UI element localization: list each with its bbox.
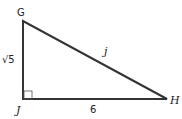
side-label-gh: j	[101, 45, 108, 58]
side-label-gj: √5	[2, 54, 15, 65]
vertex-label-h: H	[169, 94, 180, 107]
vertex-label-g: G	[17, 7, 25, 18]
triangle-gjh	[23, 21, 167, 99]
triangle-diagram: G J H √5 6 j	[0, 0, 182, 119]
right-angle-marker	[24, 91, 32, 99]
vertex-label-j: J	[14, 104, 21, 117]
side-label-jh: 6	[90, 104, 96, 115]
